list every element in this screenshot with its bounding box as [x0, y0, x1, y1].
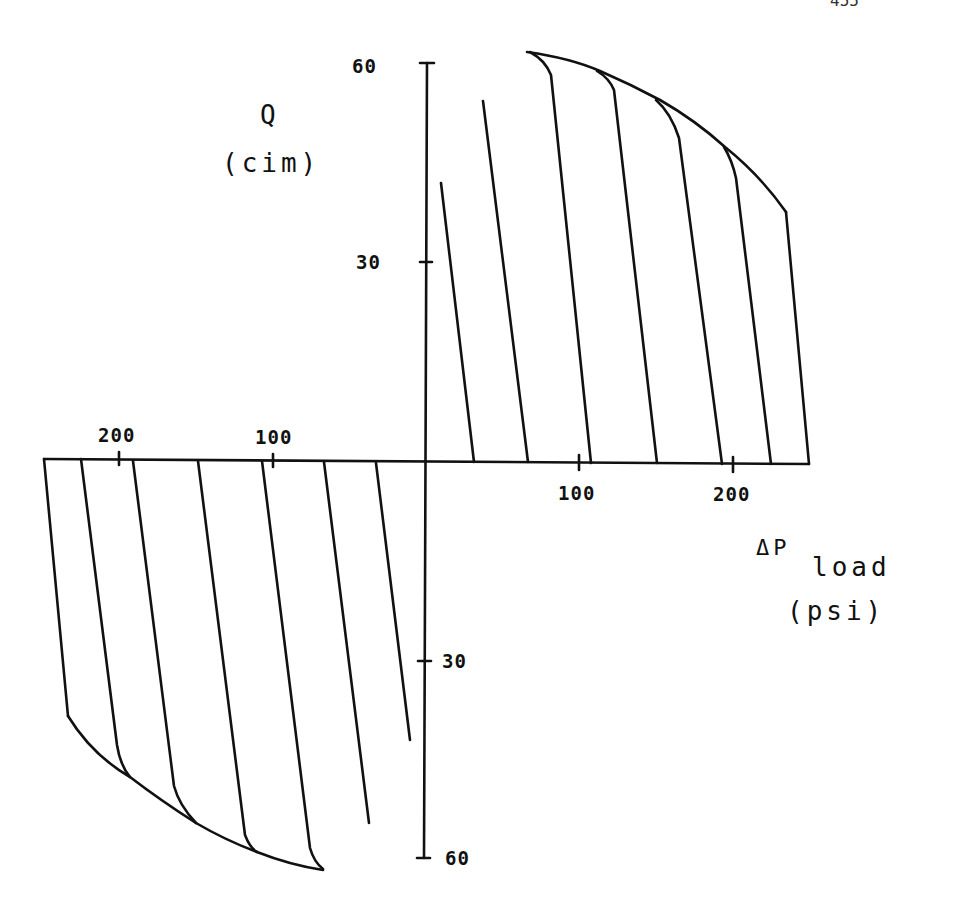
pq-chart — [0, 0, 957, 914]
envelope-curve-neg — [68, 716, 323, 870]
curve-opening-6 — [724, 147, 771, 464]
y-tick-label-60: 60 — [352, 55, 377, 77]
y-tick-label-neg60: 60 — [445, 847, 470, 869]
x-tick-label-200: 200 — [713, 483, 750, 505]
curve-opening-3-neg — [262, 461, 323, 869]
x-axis-subscript: load — [812, 552, 891, 582]
y-axis-units: (cim) — [222, 148, 320, 178]
curve-opening-7 — [786, 212, 809, 464]
curve-opening-4-neg — [198, 461, 257, 852]
x-tick-label-neg200: 200 — [98, 424, 135, 446]
x-axis-title: ΔP — [756, 535, 791, 560]
curve-opening-6-neg — [81, 459, 130, 777]
y-axis-title: Q — [260, 100, 280, 130]
x-axis-units: (psi) — [787, 596, 885, 626]
curve-opening-2 — [483, 101, 528, 462]
y-axis — [424, 63, 427, 858]
curve-opening-7-neg — [44, 459, 68, 716]
y-tick-label-neg30: 30 — [442, 650, 467, 672]
curve-opening-2-neg — [324, 462, 369, 823]
curve-opening-5 — [656, 100, 722, 464]
curve-opening-1 — [441, 183, 474, 462]
x-tick-label-100: 100 — [558, 482, 595, 504]
envelope-curve — [527, 52, 786, 212]
curve-opening-3 — [530, 52, 591, 463]
curve-opening-4 — [597, 71, 657, 463]
curve-opening-1-neg — [376, 463, 410, 740]
x-tick-label-neg100: 100 — [255, 426, 292, 448]
y-tick-label-30: 30 — [356, 251, 381, 273]
curve-opening-5-neg — [133, 461, 196, 823]
